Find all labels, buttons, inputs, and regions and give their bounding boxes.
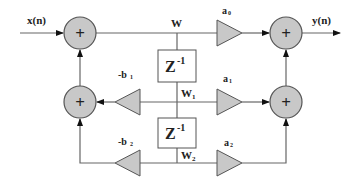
plus-icon: + [75, 93, 85, 112]
w-label: W [171, 17, 182, 29]
a2-label: a 2 [224, 137, 233, 148]
b2-base: -b [118, 136, 127, 147]
a0-sub: 0 [228, 10, 231, 16]
gain-a0-triangle [217, 20, 242, 46]
output-label: y(n) [312, 14, 331, 27]
w2-base: W [181, 149, 192, 161]
plus-icon: + [281, 93, 291, 112]
a2-out-wire [242, 119, 286, 163]
gain-b1-triangle [115, 89, 140, 115]
adder-left-top: + [64, 17, 96, 49]
delay-exponent: -1 [177, 122, 185, 133]
gain-a1-triangle [217, 89, 242, 115]
w1-sub: 1 [192, 93, 196, 101]
gain-a2-triangle [217, 150, 242, 176]
diagram-canvas: + + + + Z -1 Z -1 x(n) y(n) W W 1 W 2 a [0, 0, 361, 187]
adder-right-top: + [270, 17, 302, 49]
a1-sub: 1 [229, 78, 232, 84]
b2-sub: 2 [130, 141, 133, 147]
adder-right-bottom: + [270, 86, 302, 118]
w1-label: W 1 [181, 87, 196, 101]
b2-out-wire [80, 119, 115, 163]
b1-sub: 1 [130, 74, 133, 80]
a2-base: a [224, 137, 229, 148]
a1-label: a 1 [223, 73, 232, 84]
delay-label: Z [165, 125, 176, 142]
w2-label: W 2 [181, 149, 196, 163]
gain-b2-triangle [115, 150, 140, 176]
delay-label: Z [165, 58, 176, 75]
b1-label: -b 1 [118, 69, 133, 80]
b1-base: -b [118, 69, 127, 80]
w1-base: W [181, 87, 192, 99]
input-label: x(n) [27, 14, 46, 27]
a0-label: a 0 [222, 5, 231, 16]
delay-exponent: -1 [177, 55, 185, 66]
delay-box-2: Z -1 [158, 118, 196, 148]
w2-sub: 2 [192, 155, 196, 163]
plus-icon: + [281, 24, 291, 43]
plus-icon: + [75, 24, 85, 43]
a2-sub: 2 [230, 142, 233, 148]
delay-box-1: Z -1 [158, 50, 196, 82]
adder-left-bottom: + [64, 86, 96, 118]
a1-base: a [223, 73, 228, 84]
b2-label: -b 2 [118, 136, 133, 147]
a0-base: a [222, 5, 227, 16]
